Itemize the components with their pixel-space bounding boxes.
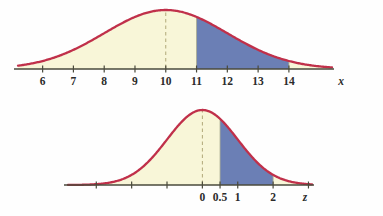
axis-tick-label: 10	[160, 75, 172, 87]
axis-tick-label: 9	[132, 75, 138, 87]
axis-tick-label: 12	[222, 75, 234, 87]
axis-tick-label: 2	[270, 191, 276, 203]
axis-tick-label: 11	[191, 75, 202, 87]
axis-tick-label: 7	[71, 75, 77, 87]
axis-tick-label: 1	[235, 191, 241, 203]
distribution-plots-canvas: 67891011121314x00.512z	[0, 0, 383, 216]
base-area-fill	[68, 110, 312, 185]
axis-tick-label: 13	[252, 75, 264, 87]
normal-distribution-figure: 67891011121314x00.512z Copyright © Cenga…	[0, 0, 383, 216]
axis-tick-label: 8	[101, 75, 107, 87]
axis-variable-label-z: z	[302, 191, 308, 203]
axis-tick-label: 0	[200, 191, 206, 203]
axis-variable-label-x: x	[337, 75, 344, 87]
chart-standard-normal-z-distribution: 00.512z	[64, 110, 314, 203]
axis-tick-label: 0.5	[213, 191, 228, 203]
axis-tick-label: 14	[283, 75, 295, 87]
axis-tick-label: 6	[40, 75, 46, 87]
chart-normal-x-distribution: 67891011121314x	[14, 10, 344, 87]
